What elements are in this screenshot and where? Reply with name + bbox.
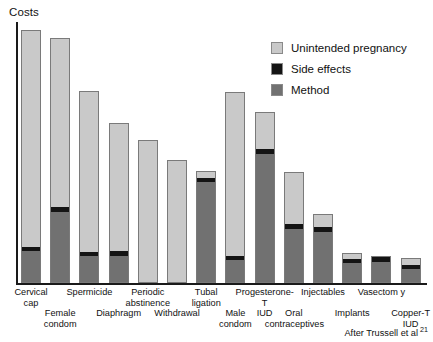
legend-item: Side effects: [271, 63, 407, 75]
x-axis-label: Tubal ligation: [177, 287, 235, 308]
bar-segment-method: [256, 154, 274, 282]
x-axis-label: Vasectom y: [352, 287, 410, 298]
bar-segment-unintended-pregnancy: [256, 113, 274, 149]
legend-label: Method: [291, 84, 329, 96]
x-axis-label: Diaphragm: [90, 308, 148, 319]
bar-copper-t-iud: [401, 258, 421, 283]
bar-segment-method: [285, 229, 303, 282]
bar-male-condom: [225, 92, 245, 283]
bar-segment-method: [314, 232, 332, 282]
footnote-reference: 21: [420, 325, 428, 334]
bar-periodic-abstinence: [138, 140, 158, 283]
legend-label: Unintended pregnancy: [291, 42, 407, 54]
bar-segment-method: [22, 251, 40, 282]
bar-segment-method: [372, 262, 390, 282]
x-axis-label: Spermicide: [60, 287, 118, 298]
bar-segment-unintended-pregnancy: [314, 215, 332, 227]
bar-segment-unintended-pregnancy: [22, 31, 40, 247]
x-axis-line: [16, 283, 427, 285]
bar-progesterone-t-iud: [255, 112, 275, 283]
x-axis-label: Cervical cap: [2, 287, 60, 308]
bar-implants: [342, 253, 362, 283]
x-axis-label: Oral contraceptives: [265, 308, 323, 329]
bar-segment-unintended-pregnancy: [51, 39, 69, 207]
x-axis-label: Injectables: [294, 287, 352, 298]
bar-segment-method: [402, 269, 420, 282]
x-axis-label: Implants: [323, 308, 381, 319]
legend-swatch-icon: [271, 63, 283, 75]
bar-injectables: [313, 214, 333, 283]
bar-oral-contraceptives: [284, 172, 304, 283]
bar-vasectom-y: [371, 256, 391, 283]
legend-swatch-icon: [271, 84, 283, 96]
legend-swatch-icon: [271, 42, 283, 54]
chart-legend: Unintended pregnancySide effectsMethod: [271, 42, 407, 96]
x-axis-label: Periodic abstinence: [119, 287, 177, 308]
bar-segment-method: [51, 212, 69, 282]
x-axis-label: Female condom: [31, 308, 89, 329]
x-axis-labels: Cervical capFemale condomSpermicideDiaph…: [0, 286, 433, 328]
bar-segment-method: [197, 182, 215, 282]
bar-segment-method: [80, 256, 98, 282]
stacked-bar-chart: Costs Unintended pregnancySide effectsMe…: [0, 0, 433, 342]
bar-spermicide: [79, 91, 99, 283]
bar-female-condom: [50, 38, 70, 283]
bar-segment-unintended-pregnancy: [110, 124, 128, 251]
legend-item: Method: [271, 84, 407, 96]
chart-footnote: After Trussell et al21: [344, 325, 428, 338]
bar-segment-method: [226, 260, 244, 282]
legend-item: Unintended pregnancy: [271, 42, 407, 54]
y-axis-title: Costs: [9, 6, 39, 18]
legend-label: Side effects: [291, 63, 351, 75]
bar-segment-unintended-pregnancy: [168, 161, 186, 282]
x-axis-label: Withdrawal: [148, 308, 206, 319]
bar-segment-unintended-pregnancy: [139, 141, 157, 282]
bar-withdrawal: [167, 160, 187, 283]
footnote-text: After Trussell et al: [344, 328, 418, 338]
bar-cervical-cap: [21, 30, 41, 283]
bar-segment-method: [343, 263, 361, 282]
bar-segment-method: [110, 256, 128, 282]
bar-segment-unintended-pregnancy: [80, 92, 98, 252]
bar-tubal-ligation: [196, 171, 216, 283]
bar-segment-unintended-pregnancy: [285, 173, 303, 224]
bar-diaphragm: [109, 123, 129, 283]
bar-segment-unintended-pregnancy: [226, 93, 244, 256]
